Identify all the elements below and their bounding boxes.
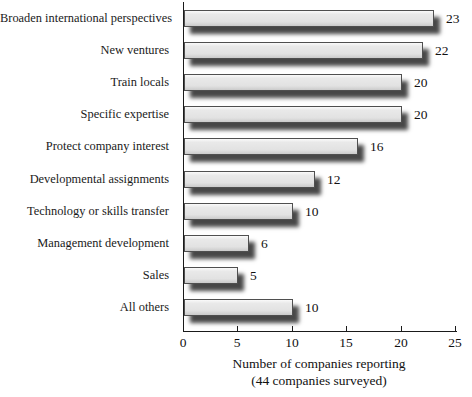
bar bbox=[184, 235, 249, 252]
category-label: Train locals bbox=[0, 74, 177, 91]
x-tick-mark bbox=[292, 326, 293, 331]
value-label: 12 bbox=[327, 171, 341, 188]
value-label: 6 bbox=[261, 235, 268, 252]
value-label: 20 bbox=[414, 106, 428, 123]
category-label: Protect company interest bbox=[0, 138, 177, 155]
value-label: 10 bbox=[305, 203, 319, 220]
bar bbox=[184, 171, 315, 188]
x-tick-mark bbox=[346, 326, 347, 331]
value-label: 16 bbox=[370, 138, 384, 155]
category-label: Management development bbox=[0, 235, 177, 252]
x-axis-subtitle: (44 companies surveyed) bbox=[183, 373, 455, 390]
x-tick-label: 5 bbox=[222, 335, 252, 350]
x-tick-mark bbox=[401, 326, 402, 331]
value-label: 20 bbox=[414, 74, 428, 91]
bar bbox=[184, 42, 423, 59]
x-tick-mark bbox=[183, 326, 184, 331]
bar bbox=[184, 10, 434, 27]
x-tick-mark bbox=[455, 326, 456, 331]
value-label: 10 bbox=[305, 299, 319, 316]
x-tick-label: 10 bbox=[277, 335, 307, 350]
bar bbox=[184, 106, 402, 123]
category-label: Broaden international perspectives bbox=[0, 10, 177, 27]
bar bbox=[184, 203, 293, 220]
category-label: Sales bbox=[0, 267, 177, 284]
bar bbox=[184, 299, 293, 316]
bar bbox=[184, 138, 358, 155]
value-label: 5 bbox=[250, 267, 257, 284]
bar bbox=[184, 74, 402, 91]
x-axis-title: Number of companies reporting bbox=[183, 356, 455, 373]
x-tick-label: 20 bbox=[386, 335, 416, 350]
bar-chart: Broaden international perspectives23New … bbox=[0, 0, 472, 397]
category-label: Specific expertise bbox=[0, 106, 177, 123]
category-label: All others bbox=[0, 299, 177, 316]
x-tick-mark bbox=[237, 326, 238, 331]
x-axis-line bbox=[183, 331, 457, 332]
x-tick-label: 15 bbox=[331, 335, 361, 350]
value-label: 22 bbox=[435, 42, 449, 59]
category-label: Developmental assignments bbox=[0, 171, 177, 188]
value-label: 23 bbox=[446, 10, 460, 27]
bar bbox=[184, 267, 238, 284]
x-tick-label: 0 bbox=[168, 335, 198, 350]
x-tick-label: 25 bbox=[440, 335, 470, 350]
category-label: Technology or skills transfer bbox=[0, 203, 177, 220]
category-label: New ventures bbox=[0, 42, 177, 59]
